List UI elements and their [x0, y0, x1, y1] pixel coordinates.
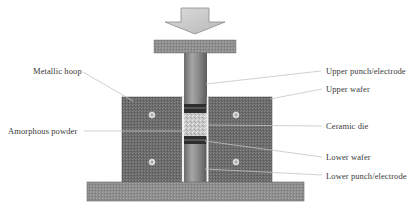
label-upper-wafer: Upper wafer: [326, 84, 370, 94]
leader-upper-punch: [206, 71, 321, 84]
die-block-left: [122, 97, 183, 183]
label-lower-punch-electrode: Lower punch/electrode: [326, 171, 407, 181]
screw-icon: [233, 159, 239, 165]
label-amorphous-powder: Amorphous powder: [8, 126, 77, 136]
upper-punch-in-bore: [184, 97, 207, 104]
screw-icon: [149, 159, 155, 165]
label-metallic-hoop: Metallic hoop: [33, 66, 82, 76]
leader-metallic-hoop: [83, 72, 133, 101]
die-block-right: [208, 97, 272, 183]
label-upper-punch-electrode: Upper punch/electrode: [326, 66, 406, 76]
load-arrow-icon: [165, 8, 225, 34]
label-ceramic-die: Ceramic die: [326, 121, 368, 131]
top-plate: [154, 40, 236, 53]
base-plate: [87, 182, 304, 201]
label-lower-wafer: Lower wafer: [326, 152, 371, 162]
lower-wafer-highlight: [184, 139, 207, 141]
hoop-wall-right: [207, 97, 209, 183]
amorphous-powder: [184, 113, 207, 136]
hoop-wall-left: [182, 97, 184, 183]
upper-wafer-highlight: [184, 107, 207, 109]
leader-upper-wafer: [270, 89, 322, 99]
screw-icon: [149, 112, 155, 118]
screw-icon: [233, 112, 239, 118]
lower-punch: [184, 144, 207, 183]
